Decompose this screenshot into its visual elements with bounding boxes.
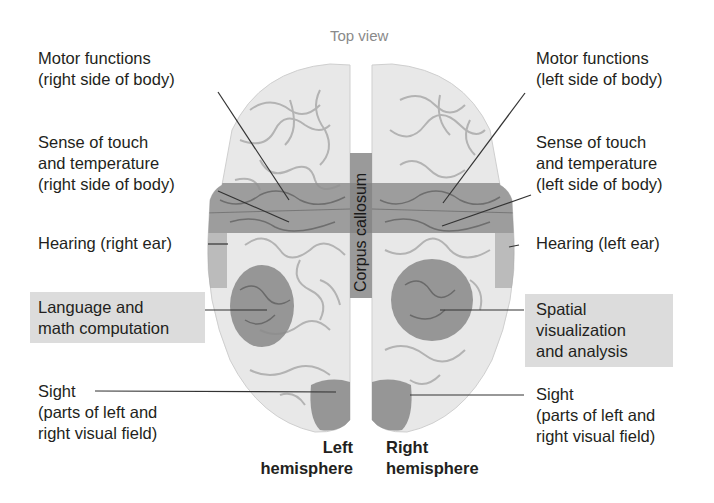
label-line: (parts of left and: [536, 405, 655, 426]
label-line: (parts of left and: [38, 402, 157, 423]
label-line: (left side of body): [536, 174, 663, 195]
label-hearing-left-ear: Hearing (left ear): [536, 233, 660, 254]
label-line: (right side of body): [38, 69, 175, 90]
label-line: and temperature: [536, 153, 663, 174]
label-line: Language and: [38, 297, 169, 318]
label-line: Hearing (right ear): [38, 233, 172, 254]
label-touch-right-body: Sense of touch and temperature (right si…: [38, 132, 175, 195]
label-touch-left-body: Sense of touch and temperature (left sid…: [536, 132, 663, 195]
label-line: Sight: [536, 384, 655, 405]
label-line: and temperature: [38, 153, 175, 174]
label-line: Hearing (left ear): [536, 233, 660, 254]
label-line: and analysis: [536, 341, 628, 362]
label-line: right visual field): [38, 423, 157, 444]
corpus-callosum-label: Corpus callosum: [352, 173, 370, 292]
label-line: Sense of touch: [536, 132, 663, 153]
right-hemisphere-shape: [372, 64, 517, 432]
label-spatial-visualization: Spatial visualization and analysis: [525, 294, 673, 367]
label-line: Motor functions: [38, 48, 175, 69]
label-line: hemisphere: [386, 458, 479, 479]
label-line: Right: [386, 437, 479, 458]
label-line: Spatial: [536, 299, 628, 320]
label-motor-left-body: Motor functions (left side of body): [536, 48, 663, 90]
label-sight-left: Sight (parts of left and right visual fi…: [38, 381, 157, 444]
label-line: (right side of body): [38, 174, 175, 195]
label-line: Sight: [38, 381, 157, 402]
label-hearing-right-ear: Hearing (right ear): [38, 233, 172, 254]
label-line: hemisphere: [241, 458, 353, 479]
label-line: math computation: [38, 318, 169, 339]
label-line: Left: [241, 437, 353, 458]
label-line: right visual field): [536, 426, 655, 447]
label-line: Sense of touch: [38, 132, 175, 153]
label-sight-right: Sight (parts of left and right visual fi…: [536, 384, 655, 447]
label-right-hemisphere: Right hemisphere: [386, 437, 479, 479]
label-language-math: Language and math computation: [30, 292, 205, 343]
label-line: Motor functions: [536, 48, 663, 69]
label-line: visualization: [536, 320, 628, 341]
left-hemisphere-shape: [205, 64, 350, 432]
label-line: (left side of body): [536, 69, 663, 90]
label-motor-right-body: Motor functions (right side of body): [38, 48, 175, 90]
label-left-hemisphere: Left hemisphere: [241, 437, 353, 479]
